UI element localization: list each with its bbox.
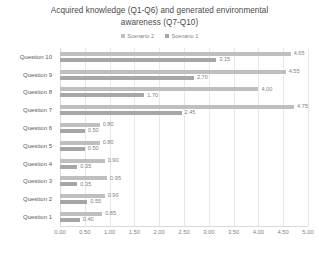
bar[interactable]: [60, 87, 258, 91]
bar-value-label: 0.95: [110, 176, 121, 182]
chart-legend: Scenario 2Scenario 1: [0, 33, 319, 39]
y-axis-category-label: Question 2: [0, 190, 56, 208]
x-axis-tick-label: 3.00: [203, 229, 214, 235]
bar[interactable]: [60, 212, 102, 216]
y-axis-category-label: Question 8: [0, 84, 56, 102]
bar-line: 0.95: [60, 176, 308, 180]
bar-value-label: 0.40: [83, 217, 94, 223]
bar-rows: 4.653.154.552.704.001.704.752.450.800.50…: [60, 48, 308, 226]
legend-swatch-icon: [165, 34, 169, 38]
legend-item[interactable]: Scenario 1: [165, 33, 198, 39]
bar-line: 0.40: [60, 218, 308, 222]
y-axis-category-label: Question 5: [0, 137, 56, 155]
y-axis-category-labels: Question 10Question 9Question 8Question …: [0, 48, 56, 226]
bar[interactable]: [60, 182, 77, 186]
bar-line: 0.90: [60, 159, 308, 163]
bar-value-label: 2.45: [185, 110, 196, 116]
bar-value-label: 4.00: [261, 87, 272, 93]
bar[interactable]: [60, 147, 85, 151]
bar[interactable]: [60, 129, 85, 133]
bar-line: 4.55: [60, 70, 308, 74]
bar-group: 4.653.15: [60, 48, 308, 66]
bar[interactable]: [60, 176, 107, 180]
bar-value-label: 0.50: [88, 146, 99, 152]
chart-title: Acquired knowledge (Q1-Q6) and generated…: [28, 5, 291, 28]
bar-value-label: 2.70: [197, 75, 208, 81]
y-axis-category-label: Question 4: [0, 155, 56, 173]
bar-value-label: 4.65: [294, 51, 305, 57]
x-axis-tick-label: 4.00: [253, 229, 264, 235]
y-axis-category-label: Question 6: [0, 119, 56, 137]
bar-line: 0.55: [60, 200, 308, 204]
bar[interactable]: [60, 111, 182, 115]
bar-value-label: 0.35: [80, 182, 91, 188]
bar-value-label: 0.35: [80, 164, 91, 170]
bar[interactable]: [60, 105, 294, 109]
y-axis-category-label: Question 1: [0, 208, 56, 226]
bar[interactable]: [60, 218, 80, 222]
bar-value-label: 0.55: [90, 199, 101, 205]
bar-group: 4.552.70: [60, 66, 308, 84]
x-axis-line: [60, 226, 308, 227]
bar-line: 1.70: [60, 93, 308, 97]
bar[interactable]: [60, 165, 77, 169]
bar-group: 0.950.35: [60, 173, 308, 191]
bar-line: 2.70: [60, 76, 308, 80]
x-axis-tick-label: 1.00: [104, 229, 115, 235]
x-axis-tick-label: 1.50: [129, 229, 140, 235]
bar-line: 0.35: [60, 165, 308, 169]
bar-value-label: 0.90: [108, 158, 119, 164]
y-axis-category-label: Question 3: [0, 173, 56, 191]
y-axis-category-label: Question 10: [0, 48, 56, 66]
bar-group: 4.001.70: [60, 84, 308, 102]
bar-value-label: 3.15: [219, 57, 230, 63]
x-axis-tick-label: 0.50: [79, 229, 90, 235]
bar-value-label: 0.80: [103, 140, 114, 146]
bar[interactable]: [60, 76, 194, 80]
bar[interactable]: [60, 200, 87, 204]
bar-value-label: 0.90: [108, 193, 119, 199]
x-axis-tick-label: 2.00: [154, 229, 165, 235]
legend-item[interactable]: Scenario 2: [121, 33, 154, 39]
bar-group: 0.800.50: [60, 119, 308, 137]
bar-value-label: 0.80: [103, 122, 114, 128]
bar-line: 0.50: [60, 129, 308, 133]
bar[interactable]: [60, 93, 144, 97]
bar-value-label: 0.50: [88, 128, 99, 134]
legend-swatch-icon: [121, 34, 125, 38]
x-axis-tick-label: 2.50: [178, 229, 189, 235]
bar-value-label: 4.55: [289, 69, 300, 75]
bar-line: 0.35: [60, 182, 308, 186]
bar-value-label: 4.75: [297, 104, 308, 110]
x-axis-tick-label: 4.50: [278, 229, 289, 235]
bar-line: 4.65: [60, 52, 308, 56]
bar-line: 4.75: [60, 105, 308, 109]
bar-line: 0.85: [60, 212, 308, 216]
legend-item-label: Scenario 1: [172, 33, 199, 39]
bar-value-label: 1.70: [147, 93, 158, 99]
chart-title-line-1: Acquired knowledge (Q1-Q6) and generated…: [28, 5, 291, 17]
bar-group: 0.850.40: [60, 208, 308, 226]
chart-title-line-2: awareness (Q7-Q10): [28, 17, 291, 29]
x-axis-tick-label: 5.00: [302, 229, 313, 235]
x-axis-tick-label: 3.50: [228, 229, 239, 235]
bar[interactable]: [60, 58, 216, 62]
bar-line: 2.45: [60, 111, 308, 115]
bar-group: 0.800.50: [60, 137, 308, 155]
x-axis-tick-labels: 0.000.501.001.502.002.503.003.504.004.50…: [60, 229, 308, 241]
bar-group: 0.900.55: [60, 190, 308, 208]
bar-line: 4.00: [60, 87, 308, 91]
plot-area: 4.653.154.552.704.001.704.752.450.800.50…: [60, 48, 308, 226]
bar-group: 0.900.35: [60, 155, 308, 173]
y-axis-category-label: Question 7: [0, 101, 56, 119]
bar[interactable]: [60, 52, 291, 56]
chart-container: Acquired knowledge (Q1-Q6) and generated…: [0, 0, 319, 256]
gridline: [308, 48, 309, 226]
bar-line: 3.15: [60, 58, 308, 62]
x-axis-tick-label: 0.00: [54, 229, 65, 235]
bar[interactable]: [60, 70, 286, 74]
legend-item-label: Scenario 2: [127, 33, 154, 39]
bar-value-label: 0.85: [105, 211, 116, 217]
bar-line: 0.50: [60, 147, 308, 151]
y-axis-category-label: Question 9: [0, 66, 56, 84]
